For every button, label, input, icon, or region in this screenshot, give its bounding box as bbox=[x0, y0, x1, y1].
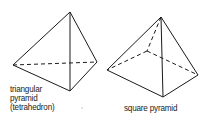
square-pyramid-figure bbox=[107, 17, 198, 97]
square-pyramid-label: square pyramid bbox=[124, 104, 177, 113]
edge bbox=[107, 70, 163, 97]
edge bbox=[107, 17, 161, 70]
edge bbox=[13, 12, 70, 65]
hidden-edge bbox=[107, 51, 147, 70]
hidden-edge bbox=[147, 17, 161, 51]
edge bbox=[70, 62, 97, 91]
speck bbox=[81, 107, 82, 108]
edge bbox=[161, 17, 163, 97]
triangular-pyramid-figure bbox=[13, 12, 97, 91]
edge bbox=[163, 75, 198, 97]
edge bbox=[70, 12, 97, 62]
hidden-edge bbox=[13, 62, 97, 65]
triangular-pyramid-label-line-3: (tetrahedron) bbox=[10, 103, 54, 112]
